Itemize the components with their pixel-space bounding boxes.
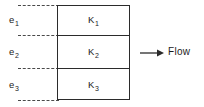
layer-thickness-label-2: e2 [9, 46, 19, 59]
layer-divider-2 [57, 68, 130, 69]
layer-conductivity-subscript-3: 3 [94, 85, 99, 92]
layer-conductivity-label-1: K1 [57, 14, 130, 27]
layer-conductivity-subscript-1: 1 [94, 20, 99, 27]
flow-arrow-icon [140, 47, 164, 59]
layer-divider-1 [57, 35, 130, 36]
layer-thickness-subscript-1: 1 [14, 20, 19, 27]
dashed-boundary-line-top [18, 5, 59, 6]
layer-thickness-subscript-2: 2 [14, 52, 19, 59]
layer-thickness-label-1: e1 [9, 14, 19, 27]
dashed-boundary-line-bottom [18, 100, 59, 101]
layer-thickness-label-3: e3 [9, 79, 19, 92]
dashed-boundary-line-1 [18, 35, 59, 36]
layer-conductivity-subscript-2: 2 [94, 52, 99, 59]
dashed-boundary-line-2 [18, 68, 59, 69]
layer-conductivity-label-2: K2 [57, 46, 130, 59]
layer-thickness-subscript-3: 3 [14, 85, 19, 92]
layer-conductivity-label-3: K3 [57, 79, 130, 92]
stratified-flow-diagram: e1 e2 e3 K1 K2 K3 Flow [0, 0, 204, 107]
flow-label: Flow [168, 46, 190, 57]
